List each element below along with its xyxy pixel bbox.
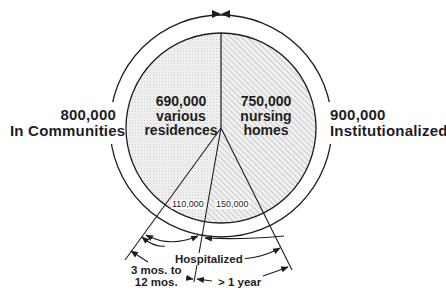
slice-110000-label: 110,000: [171, 200, 205, 209]
pie-chart-graphic: [0, 0, 446, 291]
long-stay-label: > 1 year: [218, 276, 261, 288]
top-arrow-right-icon: [221, 10, 230, 18]
nursing-homes-value: 750,000: [232, 94, 300, 109]
in-communities-text: In Communities: [10, 123, 116, 139]
institutionalized-value: 900,000: [330, 107, 444, 123]
various-residences-label: 690,000 various residences: [142, 94, 220, 138]
nursing-homes-line2: homes: [232, 123, 300, 138]
in-communities-label: 800,000 In Communities: [10, 107, 116, 139]
institutionalized-label: 900,000 Institutionalized: [330, 107, 444, 139]
short-stay-line1: 3 mos. to: [131, 264, 181, 276]
short-stay-label: 3 mos. to 12 mos.: [131, 264, 181, 288]
various-residences-line2: residences: [142, 123, 220, 138]
slice-150000-label: 150,000: [215, 200, 250, 209]
institutionalized-text: Institutionalized: [330, 123, 444, 139]
various-residences-value: 690,000: [142, 94, 220, 109]
nursing-homes-label: 750,000 nursing homes: [232, 94, 300, 138]
various-residences-line1: various: [142, 109, 220, 124]
nursing-homes-line1: nursing: [232, 109, 300, 124]
in-communities-value: 800,000: [10, 107, 116, 123]
hospitalized-label: Hospitalized: [173, 253, 245, 265]
top-arrow-left-icon: [212, 10, 221, 18]
short-stay-line2: 12 mos.: [131, 276, 181, 288]
population-pie-diagram: 800,000 In Communities 900,000 Instituti…: [0, 0, 446, 291]
